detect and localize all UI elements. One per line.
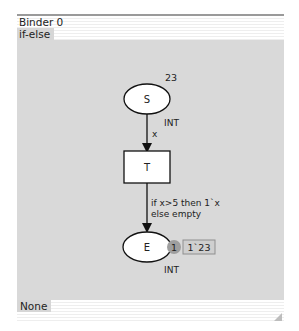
tab-bar: if-else — [17, 28, 284, 40]
binder-title: Binder 0 — [19, 16, 63, 28]
net-canvas[interactable]: S 23 INT x T if x>5 then 1`x else empty … — [17, 40, 284, 300]
place-e-token-badge[interactable]: 1 — [167, 240, 181, 254]
status-bar — [17, 312, 284, 322]
place-s-type: INT — [164, 118, 179, 128]
binder-title-bar[interactable]: Binder 0 — [17, 16, 284, 28]
place-e-type: INT — [164, 265, 179, 275]
place-s[interactable]: S — [124, 84, 170, 114]
place-e-name: E — [144, 242, 150, 253]
transition-t[interactable]: T — [124, 151, 170, 183]
place-s-name: S — [144, 94, 150, 105]
place-e-marking: 1`23 — [188, 242, 211, 253]
arc-t-to-e-label-line1: if x>5 then 1`x — [151, 198, 221, 208]
arc-t-to-e-label-line2: else empty — [151, 209, 202, 219]
resize-grip-icon[interactable] — [274, 313, 282, 321]
place-s-marking-count: 23 — [165, 72, 177, 83]
place-e[interactable]: E — [123, 232, 171, 262]
arc-s-to-t-label: x — [152, 129, 158, 139]
place-e-marking-box[interactable]: 1`23 — [183, 240, 215, 254]
place-e-token-count: 1 — [171, 242, 177, 253]
transition-t-name: T — [143, 162, 151, 173]
bottom-tab-bar: None — [17, 300, 284, 312]
binder-window: Binder 0 if-else S 23 INT x T — [17, 14, 284, 322]
tab-none[interactable]: None — [17, 300, 51, 312]
tab-if-else[interactable]: if-else — [17, 28, 54, 40]
